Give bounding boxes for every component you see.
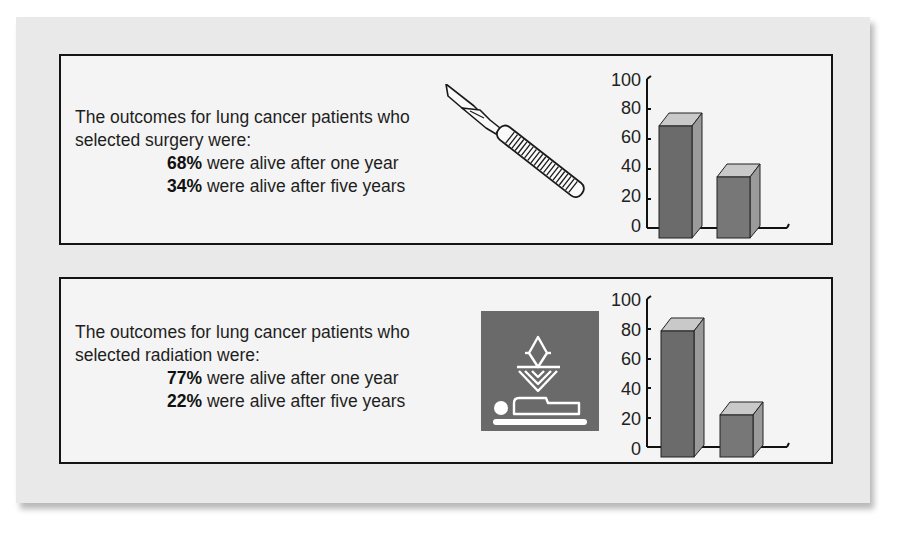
y-tick-label: 80 (621, 320, 641, 340)
bar-five-years (717, 164, 760, 238)
y-tick-label: 0 (631, 439, 641, 459)
intro-line: The outcomes for lung cancer patients wh… (75, 322, 410, 342)
y-tick-label: 100 (611, 70, 641, 90)
y-tick-label: 40 (621, 379, 641, 399)
bar-five-years (720, 402, 763, 457)
y-tick-label: 80 (621, 98, 641, 118)
intro-line: selected radiation were: (75, 345, 260, 365)
bar-one-year (661, 318, 704, 457)
y-tick-label: 60 (621, 127, 641, 147)
intro-line: selected surgery were: (75, 130, 251, 150)
surgery-survival-chart: 100 80 60 40 20 0 (581, 56, 831, 241)
y-tick-label: 20 (621, 409, 641, 429)
radiation-panel: The outcomes for lung cancer patients wh… (59, 277, 833, 464)
scalpel-icon (444, 84, 604, 214)
stat-line: 77% were alive after one year (75, 367, 410, 390)
y-tick-label: 100 (611, 290, 641, 310)
y-tick-label: 40 (621, 156, 641, 176)
y-tick-label: 0 (631, 216, 641, 236)
y-tick-label: 20 (621, 186, 641, 206)
radiation-text: The outcomes for lung cancer patients wh… (75, 321, 410, 413)
y-tick-label: 60 (621, 349, 641, 369)
radiation-survival-chart: 100 80 60 40 20 0 (581, 279, 831, 464)
surgery-text: The outcomes for lung cancer patients wh… (75, 106, 410, 198)
stat-line: 22% were alive after five years (75, 390, 410, 413)
stat-line: 34% were alive after five years (75, 175, 410, 198)
bar-one-year (659, 113, 702, 238)
stat-line: 68% were alive after one year (75, 152, 410, 175)
intro-line: The outcomes for lung cancer patients wh… (75, 107, 410, 127)
surgery-panel: The outcomes for lung cancer patients wh… (59, 54, 833, 245)
